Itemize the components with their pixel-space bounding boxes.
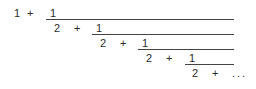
level-3-fraction-bar (185, 64, 234, 65)
level-2-fraction-bar (138, 49, 234, 50)
level-1-fraction-bar (92, 34, 234, 35)
level-4-plus-icon: + (212, 66, 218, 81)
level-3-plus-icon: + (166, 51, 172, 66)
level-1-plus-icon: + (74, 21, 80, 36)
level-0-lead-term: 1 (14, 6, 20, 21)
level-0-plus-icon: + (27, 6, 33, 21)
level-1-lead-term: 2 (54, 21, 60, 36)
level-2-lead-term: 2 (100, 36, 106, 51)
level-0-fraction-bar (46, 19, 234, 20)
level-3-lead-term: 2 (146, 51, 152, 66)
level-4-lead-term: 2 (192, 66, 198, 81)
level-2-plus-icon: + (120, 36, 126, 51)
continuation-ellipsis: ... (232, 66, 247, 81)
continued-fraction-expression: 1 + 1 2 + 1 2 + 1 2 + 1 2 + ... (0, 0, 256, 89)
